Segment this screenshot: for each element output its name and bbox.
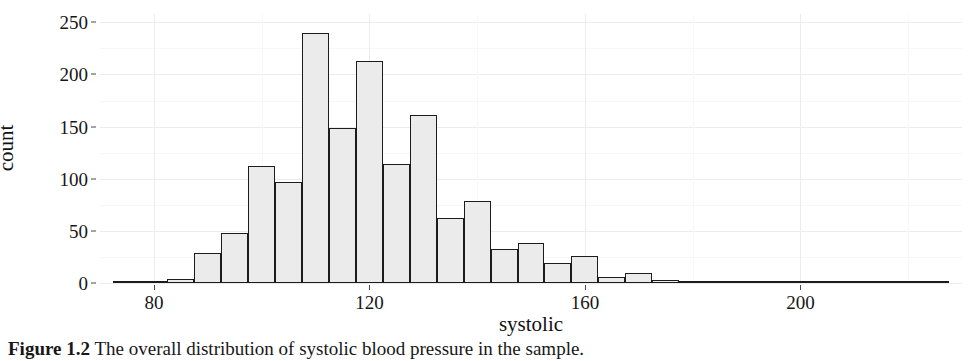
y-tick-label: 0 bbox=[79, 274, 89, 293]
y-tick-mark bbox=[91, 178, 96, 179]
y-tick-mark bbox=[91, 126, 96, 127]
x-axis-title: systolic bbox=[499, 312, 563, 337]
histogram-bar bbox=[733, 281, 760, 283]
histogram-bar bbox=[625, 273, 652, 283]
histogram-bar bbox=[410, 115, 437, 283]
x-tick-mark bbox=[369, 285, 370, 290]
histogram-bar bbox=[598, 277, 625, 283]
histogram-bar bbox=[113, 281, 140, 283]
x-tick-label: 80 bbox=[144, 293, 163, 312]
histogram-bar bbox=[760, 281, 787, 283]
histogram-bar bbox=[248, 166, 275, 283]
histogram-bar bbox=[383, 164, 410, 283]
y-tick-label: 150 bbox=[60, 117, 89, 136]
y-tick-mark bbox=[91, 74, 96, 75]
histogram-bar bbox=[679, 281, 706, 283]
x-axis: 80120160200 bbox=[100, 285, 962, 315]
gridline-y-major bbox=[100, 283, 962, 284]
x-tick-label: 120 bbox=[355, 293, 384, 312]
histogram-bar bbox=[706, 281, 733, 283]
y-tick-mark bbox=[91, 283, 96, 284]
y-tick-mark bbox=[91, 22, 96, 23]
histogram-bar bbox=[922, 281, 949, 283]
x-tick-mark bbox=[154, 285, 155, 290]
histogram-bar bbox=[491, 249, 518, 283]
histogram-bar bbox=[356, 61, 383, 283]
histogram-bar bbox=[814, 281, 841, 283]
y-axis-title: count bbox=[0, 125, 19, 172]
plot-panel bbox=[100, 14, 962, 283]
y-tick-label: 50 bbox=[69, 221, 88, 240]
histogram-bar bbox=[464, 201, 491, 283]
histogram-bar bbox=[275, 182, 302, 283]
x-tick-label: 200 bbox=[786, 293, 815, 312]
y-tick-mark bbox=[91, 230, 96, 231]
histogram-bar bbox=[221, 233, 248, 283]
histogram-bar bbox=[194, 253, 221, 283]
x-tick-mark bbox=[585, 285, 586, 290]
histogram-bars bbox=[100, 14, 962, 283]
x-tick-mark bbox=[800, 285, 801, 290]
x-tick-label: 160 bbox=[571, 293, 600, 312]
histogram-bar bbox=[167, 279, 194, 283]
histogram-bar bbox=[841, 281, 868, 283]
histogram-bar bbox=[571, 256, 598, 283]
histogram-bar bbox=[329, 128, 356, 283]
histogram-bar bbox=[895, 281, 922, 283]
y-tick-label: 200 bbox=[60, 65, 89, 84]
y-tick-label: 100 bbox=[60, 169, 89, 188]
y-axis-title-label: count bbox=[0, 125, 19, 172]
figure-caption: Figure 1.2 The overall distribution of s… bbox=[8, 337, 968, 361]
histogram-bar bbox=[518, 243, 545, 283]
histogram-bar bbox=[140, 281, 167, 283]
histogram-bar bbox=[787, 281, 814, 283]
histogram-bar bbox=[652, 280, 679, 283]
figure-caption-label: Figure 1.2 bbox=[8, 338, 90, 359]
histogram-bar bbox=[302, 33, 329, 283]
histogram-bar bbox=[544, 263, 571, 283]
histogram-bar bbox=[868, 281, 895, 283]
histogram-bar bbox=[437, 218, 464, 283]
y-tick-label: 250 bbox=[60, 13, 89, 32]
figure-caption-text: The overall distribution of systolic blo… bbox=[94, 338, 584, 359]
